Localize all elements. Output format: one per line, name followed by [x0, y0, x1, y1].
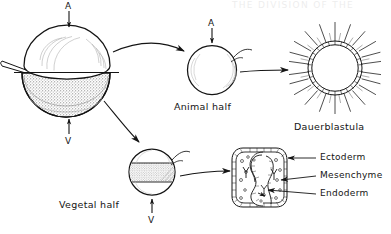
- arrow-to-animal-half: [113, 43, 184, 52]
- animal-half-group: [188, 28, 253, 95]
- callout-label-endoderm: Endoderm: [320, 188, 369, 198]
- caption-vegetal-half: Vegetal half: [59, 199, 119, 210]
- arrow-to-dauerblastula: [240, 70, 288, 72]
- axis-label-animal-whole: A: [65, 1, 71, 11]
- callout-label-ectoderm: Ectoderm: [320, 152, 366, 162]
- faint-page-title: THE DIVISION OF THE: [231, 0, 354, 10]
- callout-label-mesenchyme: Mesenchyme: [320, 170, 383, 180]
- microsurgery-needle: [1, 61, 27, 73]
- dauerblastula-group: [289, 22, 381, 114]
- gastrula-section-group: [232, 148, 287, 207]
- caption-animal-half: Animal half: [174, 101, 231, 112]
- blastula-cilia: [289, 22, 381, 114]
- vegetal-half-group: [128, 149, 190, 213]
- embryology-diagram: THE DIVISION OF THE: [0, 0, 391, 234]
- svg-text:THE DIVISION OF THE: THE DIVISION OF THE: [231, 0, 354, 10]
- caption-dauerblastula: Dauerblastula: [294, 121, 364, 132]
- arrow-to-gastrula: [180, 171, 230, 176]
- arrow-to-vegetal-half: [104, 101, 139, 142]
- axis-label-vegetal-half: V: [148, 215, 154, 225]
- axis-label-vegetal-whole: V: [65, 136, 71, 146]
- axis-label-animal-half: A: [208, 18, 214, 28]
- whole-egg-group: [1, 11, 120, 134]
